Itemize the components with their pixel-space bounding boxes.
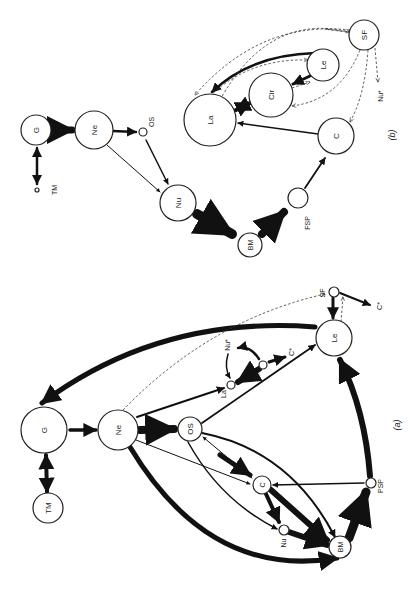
edge-cir-la bbox=[236, 103, 250, 110]
node-label: FSP bbox=[304, 216, 311, 230]
node-a-nu: Nu bbox=[279, 525, 289, 547]
node-label: SF bbox=[360, 30, 369, 40]
edge-os-nu bbox=[146, 140, 168, 184]
edge-c-la bbox=[238, 123, 318, 134]
node-label: Le bbox=[319, 60, 328, 69]
edge-le-sf-dashed bbox=[341, 297, 343, 322]
node-a-c: C bbox=[253, 476, 271, 494]
edge-le-cir bbox=[293, 76, 310, 84]
node-label: La bbox=[206, 115, 215, 124]
panel-label-b: (b) bbox=[387, 129, 397, 140]
node-b-tm: TM bbox=[35, 185, 58, 195]
node-a-tm: TM bbox=[33, 493, 63, 523]
edge-bm-psp bbox=[349, 492, 366, 538]
node-label-nu-star: Nu* bbox=[224, 339, 231, 351]
node-a-bm: BM bbox=[329, 536, 351, 558]
edge-cir-cstar bbox=[269, 357, 285, 362]
node-b-sf: SF bbox=[349, 20, 379, 50]
edge-nustar-la bbox=[226, 354, 230, 378]
node-b-la: La bbox=[184, 94, 236, 146]
node-label: Nu bbox=[174, 198, 183, 208]
edge-sf-c-dashed bbox=[350, 50, 368, 122]
panel-b: G Ne OS TM Nu BM FSP C bbox=[21, 20, 397, 257]
edge-sf-nustar-dashed bbox=[375, 48, 378, 82]
node-label: C bbox=[259, 482, 266, 487]
node-label: Cir bbox=[254, 372, 261, 382]
edge-os-c-thick bbox=[220, 455, 250, 475]
edge-g-tm bbox=[46, 455, 47, 492]
node-a-sf: SF bbox=[319, 287, 339, 297]
edge-le-g bbox=[42, 326, 315, 403]
node-label: Nu bbox=[280, 538, 287, 547]
node-label: G bbox=[32, 127, 41, 133]
node-b-nu: Nu bbox=[160, 185, 196, 221]
node-label-c-star: C* bbox=[288, 348, 295, 356]
edge-ne-os bbox=[140, 429, 174, 430]
edge-cir-nustar bbox=[238, 347, 259, 359]
node-b-ne: Ne bbox=[75, 111, 113, 149]
node-a-g: G bbox=[21, 407, 67, 453]
node-label: PSP bbox=[377, 479, 384, 493]
panel-a: G TM Ne OS La Cir Nu* C* Le SF bbox=[21, 287, 402, 561]
node-label: Le bbox=[330, 333, 339, 342]
edge-nu-bm bbox=[197, 214, 232, 234]
node-b-fsp: FSP bbox=[288, 188, 311, 230]
edge-sf-cstar bbox=[340, 293, 370, 305]
edge-ne-la bbox=[137, 388, 224, 417]
node-b-cir: Cir bbox=[249, 73, 293, 117]
node-label: Ne bbox=[90, 124, 99, 135]
node-label: Cir bbox=[267, 90, 276, 101]
edge-ne-os bbox=[113, 131, 136, 132]
edge-psp-le bbox=[340, 360, 370, 476]
node-a-le: Le bbox=[316, 320, 352, 356]
node-b-c: C bbox=[318, 118, 354, 154]
node-label: BM bbox=[337, 542, 344, 553]
node-label: TM bbox=[44, 502, 53, 514]
node-a-os: OS bbox=[178, 417, 202, 441]
node-label: Ne bbox=[114, 424, 123, 435]
node-label: OS bbox=[186, 423, 195, 435]
network-diagram-figure: G Ne OS TM Nu BM FSP C bbox=[0, 0, 417, 593]
node-b-g: G bbox=[21, 115, 51, 145]
node-label: G bbox=[40, 427, 49, 433]
node-label-nu-star: Nu* bbox=[377, 90, 384, 102]
node-b-le: Le bbox=[307, 49, 339, 81]
edge-psp-c bbox=[273, 483, 364, 485]
panel-label-a: (a) bbox=[392, 419, 402, 430]
edge-fsp-c bbox=[305, 158, 325, 188]
node-label: BM bbox=[247, 240, 254, 251]
node-label-c-star: C* bbox=[376, 302, 383, 310]
node-label: OS bbox=[148, 117, 155, 127]
node-b-os: OS bbox=[139, 117, 155, 136]
node-label: TM bbox=[51, 185, 58, 195]
node-b-bm: BM bbox=[238, 233, 262, 257]
edge-bm-fsp bbox=[262, 212, 284, 234]
node-label: C bbox=[332, 133, 341, 139]
node-a-ne: Ne bbox=[98, 410, 138, 450]
node-label: SF bbox=[319, 289, 326, 298]
node-label: La bbox=[220, 390, 227, 398]
